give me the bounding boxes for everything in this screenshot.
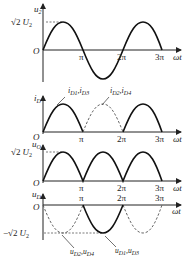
- label-uD1-uD3: uD1,uD3: [115, 246, 139, 256]
- label-iD2-iD4: iD2,iD4: [110, 86, 131, 96]
- tick-3pi: 3π: [155, 52, 165, 62]
- iD1-iD3-curve: [43, 104, 162, 132]
- uD2-uD4-curve: [43, 205, 162, 233]
- leader-iD24: [102, 97, 109, 105]
- tick-pi: π: [79, 193, 84, 203]
- tick-3pi: 3π: [155, 134, 165, 144]
- tick-2pi: 2π: [117, 52, 127, 62]
- uO-rectified-curve: [43, 152, 162, 181]
- label-iD1-iD3: iD1,iD3: [68, 86, 89, 96]
- origin-label: O: [33, 46, 40, 56]
- label-uD2-uD4: uD2,uD4: [70, 247, 94, 257]
- y-label: uD: [32, 189, 42, 200]
- tick-3pi: 3π: [155, 183, 165, 193]
- peak-label: √2U2: [11, 17, 32, 28]
- panel-u2: u2 √2U2 O π 2π 3π ωt: [11, 4, 182, 82]
- origin-label: O: [33, 178, 40, 188]
- panel-output-voltage: uO √2U2 O π 2π 3π ωt: [11, 139, 182, 193]
- trough-label: −√2U2: [3, 228, 29, 239]
- tick-pi: π: [79, 183, 84, 193]
- y-label: iD: [34, 93, 42, 104]
- tick-pi: π: [79, 52, 84, 62]
- x-label: ωt: [172, 206, 181, 216]
- origin-label: O: [33, 202, 40, 212]
- y-label: u2: [34, 4, 42, 15]
- tick-2pi: 2π: [117, 193, 127, 203]
- x-label: ωt: [173, 134, 182, 144]
- panel-diode-voltages: uD O π 2π 3π ωt −√2U2 uD2,uD4 uD1,uD3: [3, 189, 181, 257]
- tick-3pi: 3π: [155, 193, 165, 203]
- x-label: ωt: [173, 183, 182, 193]
- tick-2pi: 2π: [117, 134, 127, 144]
- rectifier-waveforms-diagram: u2 √2U2 O π 2π 3π ωt iD iD1,iD3 iD2,iD4 …: [0, 0, 189, 257]
- panel-diode-currents: iD iD1,iD3 iD2,iD4 O π 2π 3π ωt: [33, 86, 182, 144]
- uD1-uD3-curve: [83, 205, 123, 233]
- tick-pi: π: [79, 134, 84, 144]
- iD2-iD4-curve: [83, 104, 123, 132]
- tick-2pi: 2π: [117, 183, 127, 193]
- peak-label: √2U2: [11, 147, 32, 158]
- x-label: ωt: [173, 52, 182, 62]
